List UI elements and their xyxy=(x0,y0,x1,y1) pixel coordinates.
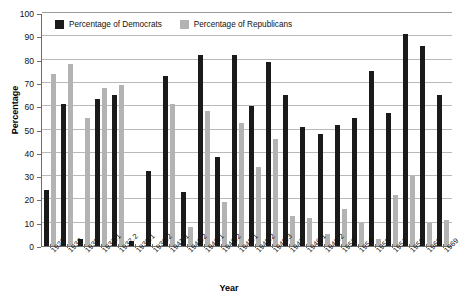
y-tick-label-10: 10 xyxy=(25,219,34,229)
bar-democrats xyxy=(95,99,100,246)
bar-group xyxy=(76,14,93,246)
bar-group xyxy=(111,14,128,246)
bar-democrats xyxy=(369,71,374,246)
y-tick-label-50: 50 xyxy=(25,126,34,136)
plot-area xyxy=(41,14,452,247)
legend-swatch-republicans-icon xyxy=(180,20,189,29)
y-axis: Percentage 0102030405060708090100 xyxy=(0,0,41,261)
y-tick-label-100: 100 xyxy=(20,9,34,19)
bar-republicans xyxy=(119,85,124,246)
y-tick-label-80: 80 xyxy=(25,56,34,66)
bar-group xyxy=(402,14,419,246)
bar-democrats xyxy=(403,34,408,246)
bar-republicans xyxy=(68,64,73,246)
bar-democrats xyxy=(318,134,323,246)
bar-group xyxy=(213,14,230,246)
bar-democrats xyxy=(352,118,357,246)
x-axis-title: Year xyxy=(0,283,458,293)
y-tick-label-40: 40 xyxy=(25,149,34,159)
bar-group xyxy=(436,14,453,246)
legend-swatch-democrats-icon xyxy=(55,20,64,29)
bar-democrats xyxy=(266,62,271,246)
bar-group xyxy=(230,14,247,246)
bar-group xyxy=(145,14,162,246)
bar-democrats xyxy=(300,127,305,246)
bar-group xyxy=(265,14,282,246)
bar-group xyxy=(316,14,333,246)
y-tick-label-90: 90 xyxy=(25,32,34,42)
bar-republicans xyxy=(273,139,278,246)
bar-republicans xyxy=(170,104,175,246)
bar-group xyxy=(367,14,384,246)
bar-group xyxy=(419,14,436,246)
legend-item-republicans: Percentage of Republicans xyxy=(180,20,292,29)
bar-group xyxy=(282,14,299,246)
bar-group xyxy=(248,14,265,246)
bar-group xyxy=(350,14,367,246)
bar-democrats xyxy=(112,95,117,246)
bar-group xyxy=(128,14,145,246)
bar-republicans xyxy=(51,74,56,246)
x-axis: 1923193319351937.11937.21939.11939.21941… xyxy=(41,248,452,288)
bar-democrats xyxy=(249,106,254,246)
bar-democrats xyxy=(386,113,391,246)
y-tick-label-0: 0 xyxy=(29,242,34,252)
bar-republicans xyxy=(102,88,107,246)
legend-label-democrats: Percentage of Democrats xyxy=(69,20,162,29)
bar-democrats xyxy=(420,46,425,246)
y-axis-title: Percentage xyxy=(10,70,20,150)
chart-legend: Percentage of Democrats Percentage of Re… xyxy=(55,20,292,29)
bar-group xyxy=(162,14,179,246)
legend-item-democrats: Percentage of Democrats xyxy=(55,20,162,29)
bar-democrats xyxy=(198,55,203,246)
y-tick-label-70: 70 xyxy=(25,79,34,89)
bar-group xyxy=(179,14,196,246)
bar-republicans xyxy=(393,195,398,246)
gridline-100 xyxy=(42,12,452,13)
bar-group xyxy=(59,14,76,246)
y-tick-label-30: 30 xyxy=(25,172,34,182)
bar-group xyxy=(333,14,350,246)
bar-group xyxy=(385,14,402,246)
bar-group xyxy=(196,14,213,246)
bar-democrats xyxy=(44,190,49,246)
y-tick-label-20: 20 xyxy=(25,195,34,205)
bar-group xyxy=(93,14,110,246)
bar-republicans xyxy=(85,118,90,246)
bar-democrats xyxy=(163,76,168,246)
bar-democrats xyxy=(283,95,288,246)
bar-democrats xyxy=(61,104,66,246)
bar-group xyxy=(299,14,316,246)
bar-democrats xyxy=(437,95,442,246)
y-tick-label-60: 60 xyxy=(25,102,34,112)
bar-republicans xyxy=(205,111,210,246)
bar-series-container xyxy=(42,14,452,246)
bar-democrats xyxy=(335,125,340,246)
bar-republicans xyxy=(410,176,415,246)
bar-democrats xyxy=(232,55,237,246)
legend-label-republicans: Percentage of Republicans xyxy=(194,20,292,29)
bar-republicans xyxy=(239,123,244,246)
bar-group xyxy=(42,14,59,246)
